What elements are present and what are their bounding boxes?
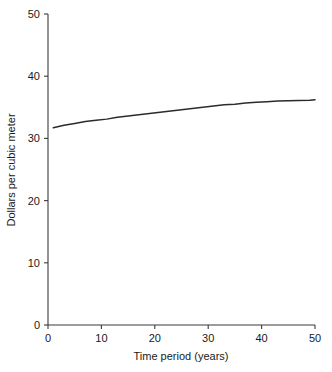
x-tick-label: 10: [95, 332, 107, 344]
y-tick-label: 10: [28, 257, 40, 269]
x-axis-ticks: 01020304050: [45, 325, 321, 344]
y-axis-title: Dollars per cubic meter: [5, 113, 17, 226]
x-tick-label: 30: [202, 332, 214, 344]
y-tick-label: 0: [34, 319, 40, 331]
y-axis-ticks: 01020304050: [28, 8, 48, 331]
x-axis-title: Time period (years): [134, 350, 229, 362]
y-tick-label: 30: [28, 132, 40, 144]
y-tick-label: 50: [28, 8, 40, 20]
x-tick-label: 20: [149, 332, 161, 344]
y-tick-label: 20: [28, 195, 40, 207]
x-tick-label: 0: [45, 332, 51, 344]
y-tick-label: 40: [28, 70, 40, 82]
line-chart-svg: 01020304050 01020304050 Time period (yea…: [0, 0, 332, 372]
chart-figure: 01020304050 01020304050 Time period (yea…: [0, 0, 332, 372]
x-tick-label: 40: [255, 332, 267, 344]
x-tick-label: 50: [309, 332, 321, 344]
data-series-line: [53, 100, 315, 128]
